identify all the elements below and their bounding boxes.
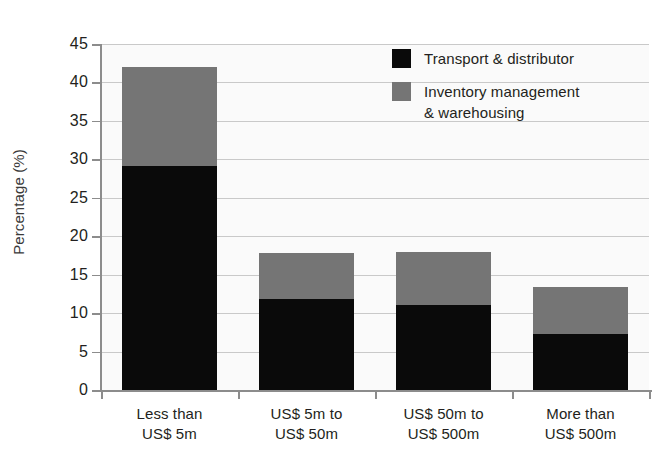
x-axis-category-label: Less than US$ 5m xyxy=(101,404,238,444)
legend-swatch-icon xyxy=(392,82,411,101)
legend-item: Transport & distributor xyxy=(392,48,654,69)
bar-stack xyxy=(259,44,354,390)
y-axis-tick-label: 35 xyxy=(46,113,88,129)
y-axis-tick xyxy=(92,121,101,123)
y-axis-tick xyxy=(92,44,101,46)
y-axis-tick xyxy=(92,313,101,315)
y-axis-title: Percentage (%) xyxy=(8,52,30,352)
bar-segment xyxy=(396,252,491,306)
bar-segment xyxy=(259,299,354,390)
x-axis-line xyxy=(92,390,652,392)
x-axis-category-label: More than US$ 500m xyxy=(512,404,649,444)
y-axis-line xyxy=(100,44,102,391)
legend-item: Inventory management & warehousing xyxy=(392,81,654,123)
legend-label: Transport & distributor xyxy=(424,48,574,69)
x-axis-category-label: US$ 50m to US$ 500m xyxy=(375,404,512,444)
bar-segment xyxy=(396,305,491,390)
bar-segment xyxy=(122,67,217,165)
y-axis-tick xyxy=(92,82,101,84)
y-axis-tick xyxy=(92,198,101,200)
y-axis-tick xyxy=(92,159,101,161)
y-axis-tick-label: 5 xyxy=(46,344,88,360)
x-axis-tick xyxy=(375,391,377,399)
x-axis-tick xyxy=(101,391,103,399)
bar-segment xyxy=(533,334,628,390)
y-axis-tick-label: 45 xyxy=(46,36,88,52)
bar-segment xyxy=(259,253,354,299)
y-axis-tick-label: 30 xyxy=(46,151,88,167)
x-axis-tick xyxy=(238,391,240,399)
x-axis-tick xyxy=(512,391,514,399)
legend-label: Inventory management & warehousing xyxy=(424,81,579,123)
y-axis-tick-label: 25 xyxy=(46,190,88,206)
y-axis-tick xyxy=(92,236,101,238)
y-axis-tick-label: 40 xyxy=(46,74,88,90)
y-axis-tick xyxy=(92,275,101,277)
y-axis-tick xyxy=(92,352,101,354)
legend-swatch-icon xyxy=(392,49,411,68)
y-axis-tick xyxy=(92,390,101,392)
y-axis-tick-label: 10 xyxy=(46,305,88,321)
bar-stack xyxy=(122,44,217,390)
y-axis-tick-label: 0 xyxy=(46,382,88,398)
y-axis-tick-label: 20 xyxy=(46,228,88,244)
bar-segment xyxy=(122,166,217,391)
x-axis-tick xyxy=(649,391,651,399)
bar-segment xyxy=(533,287,628,334)
stacked-bar-chart: Percentage (%) 051015202530354045 Less t… xyxy=(0,0,661,473)
x-axis-category-label: US$ 5m to US$ 50m xyxy=(238,404,375,444)
y-axis-tick-label: 15 xyxy=(46,267,88,283)
chart-legend: Transport & distributorInventory managem… xyxy=(392,48,654,135)
y-axis-tick-labels: 051015202530354045 xyxy=(40,0,88,473)
